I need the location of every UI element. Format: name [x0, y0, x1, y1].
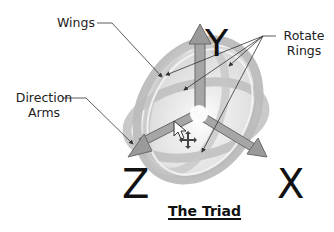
direction-arms-label-line2: Arms	[10, 105, 78, 120]
diagram-title: The Triad	[168, 203, 241, 219]
wings-label: Wings	[57, 15, 95, 30]
axis-x-label: X	[277, 164, 304, 204]
axis-z-label: Z	[122, 164, 149, 204]
rotate-rings-label-line1: Rotate	[279, 28, 329, 43]
axis-y-label: Y	[205, 24, 228, 62]
triad-diagram: Wings Direction Arms Rotate Rings Y Z X …	[0, 0, 334, 232]
direction-arms-label-line1: Direction	[10, 90, 78, 105]
direction-arms-label: Direction Arms	[10, 90, 78, 120]
rotate-rings-label: Rotate Rings	[279, 28, 329, 58]
rotate-rings-label-line2: Rings	[279, 43, 329, 58]
